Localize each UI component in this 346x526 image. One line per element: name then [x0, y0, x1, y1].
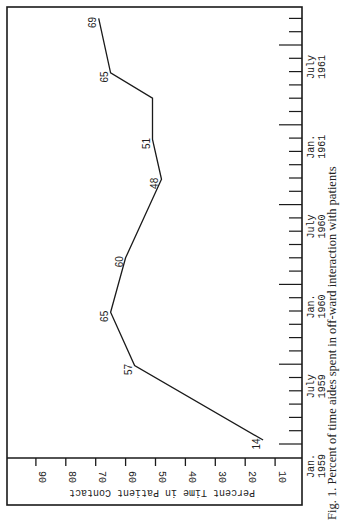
data-point-label: 51: [141, 137, 152, 149]
plot-frame: [7, 7, 302, 505]
data-point-labels: 1457656048516569: [87, 16, 262, 449]
data-point-label: 65: [99, 310, 110, 322]
line-chart: 102030405060708090 Jan.1959July1959Jan.1…: [0, 0, 346, 526]
time-tick-label: July: [306, 215, 317, 239]
figure-caption: Fig. 1. Percent of time aides spent in o…: [325, 166, 339, 520]
data-point-label: 60: [114, 256, 125, 268]
value-tick-label: 40: [186, 471, 197, 483]
value-tick-label: 10: [276, 471, 287, 483]
value-axis-title: Percent Time in Patient Contact: [69, 487, 255, 498]
time-tick-label: July: [306, 55, 317, 79]
time-tick-label: Jan.: [306, 294, 317, 318]
value-tick-label: 20: [246, 471, 257, 483]
time-tick-label: Jan.: [306, 135, 317, 159]
time-tick-label: Jan.: [306, 454, 317, 478]
value-tick-label: 30: [216, 471, 227, 483]
value-tick-label: 80: [66, 471, 77, 483]
data-point-label: 57: [123, 364, 134, 376]
data-point-label: 14: [251, 438, 262, 450]
value-tick-label: 60: [126, 471, 137, 483]
time-tick-label: 1961: [317, 55, 328, 79]
value-tick-label: 90: [36, 471, 47, 483]
data-series-line: [99, 18, 263, 440]
time-axis-ticks: [279, 18, 302, 444]
data-point-label: 48: [149, 177, 160, 189]
data-point-label: 69: [87, 16, 98, 28]
time-tick-label: July: [306, 374, 317, 398]
time-tick-label: 1961: [317, 135, 328, 159]
value-tick-label: 70: [96, 471, 107, 483]
data-point-label: 65: [99, 71, 110, 83]
value-tick-label: 50: [156, 471, 167, 483]
value-axis-ticks: 102030405060708090: [36, 458, 287, 483]
